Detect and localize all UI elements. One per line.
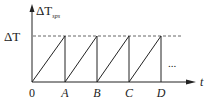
tick-label-a: A [60, 86, 69, 100]
y-axis-arrow-icon [30, 4, 35, 12]
x-axis-label: t [200, 75, 204, 89]
tick-label-b: B [93, 86, 101, 100]
tick-label-0: 0 [29, 86, 35, 100]
sawtooth-waveform [32, 36, 161, 82]
sawtooth-diagram: ΔTsps ΔT 0 A B C D t ... [0, 0, 208, 101]
continuation-ellipsis: ... [168, 57, 177, 69]
tick-label-d: D [156, 86, 166, 100]
y-axis-label: ΔTsps [36, 3, 61, 19]
threshold-label: ΔT [4, 29, 20, 44]
x-axis-arrow-icon [186, 80, 196, 85]
tick-label-c: C [125, 86, 134, 100]
